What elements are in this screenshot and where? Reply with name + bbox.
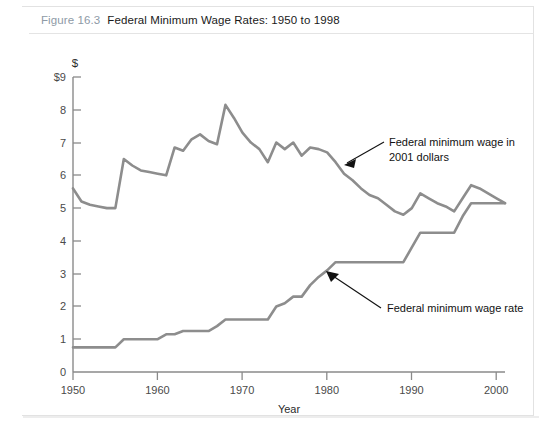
figure-bottom-shadow: [23, 416, 539, 418]
figure-frame: [22, 6, 534, 416]
figure-header: Figure 16.3 Federal Minimum Wage Rates: …: [29, 7, 534, 34]
figure-title: Federal Minimum Wage Rates: 1950 to 1998: [107, 14, 339, 26]
figure-number: Figure 16.3: [41, 14, 100, 26]
